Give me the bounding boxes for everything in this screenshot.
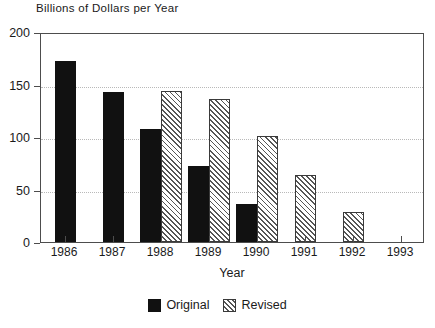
x-axis-tick-mark bbox=[161, 236, 162, 242]
x-axis-tick-label: 1993 bbox=[387, 245, 414, 259]
chart-title: Billions of Dollars per Year bbox=[36, 2, 179, 14]
x-axis-tick-mark bbox=[209, 236, 210, 242]
legend-label-original: Original bbox=[166, 298, 209, 312]
y-axis-tick-label: 100 bbox=[9, 131, 30, 145]
y-axis-tick-mark bbox=[34, 86, 40, 87]
bar-original bbox=[103, 92, 124, 242]
x-axis-labels: 19861987198819891990199119921993 bbox=[40, 245, 424, 263]
x-axis-tick-mark bbox=[401, 236, 402, 242]
bar-revised bbox=[161, 91, 182, 242]
plot-area bbox=[40, 33, 424, 243]
y-axis-tick-label: 200 bbox=[9, 26, 30, 40]
chart-legend: Original Revised bbox=[0, 298, 435, 312]
legend-item-original: Original bbox=[148, 298, 209, 312]
y-axis-tick-label: 50 bbox=[16, 184, 30, 198]
gridline bbox=[41, 139, 423, 140]
y-axis-tick-label: 150 bbox=[9, 79, 30, 93]
legend-swatch-revised-icon bbox=[223, 299, 236, 312]
bar-original bbox=[236, 204, 257, 242]
x-axis-tick-label: 1987 bbox=[99, 245, 126, 259]
x-axis-tick-label: 1988 bbox=[147, 245, 174, 259]
y-axis: 050100150200 bbox=[0, 33, 40, 243]
x-axis-tick-label: 1989 bbox=[195, 245, 222, 259]
bar-original bbox=[140, 129, 161, 242]
legend-swatch-original-icon bbox=[148, 299, 161, 312]
x-axis-tick-mark bbox=[305, 236, 306, 242]
bar-original bbox=[188, 166, 209, 242]
bar-revised bbox=[257, 136, 278, 242]
x-axis-title: Year bbox=[40, 266, 424, 280]
gridline bbox=[41, 87, 423, 88]
y-axis-tick-mark bbox=[34, 33, 40, 34]
bar-revised bbox=[209, 99, 230, 242]
x-axis-tick-label: 1991 bbox=[291, 245, 318, 259]
legend-label-revised: Revised bbox=[241, 298, 286, 312]
gridline bbox=[41, 192, 423, 193]
y-axis-tick-mark bbox=[34, 243, 40, 244]
x-axis-tick-mark bbox=[65, 236, 66, 242]
x-axis-tick-mark bbox=[353, 236, 354, 242]
y-axis-tick-mark bbox=[34, 191, 40, 192]
y-axis-tick-mark bbox=[34, 138, 40, 139]
x-axis-tick-label: 1986 bbox=[51, 245, 78, 259]
bar-chart-figure: Billions of Dollars per Year 05010015020… bbox=[0, 0, 435, 328]
bar-revised bbox=[295, 175, 316, 242]
y-axis-tick-label: 0 bbox=[23, 236, 30, 250]
legend-item-revised: Revised bbox=[223, 298, 286, 312]
x-axis-tick-label: 1992 bbox=[339, 245, 366, 259]
x-axis-tick-mark bbox=[113, 236, 114, 242]
x-axis-tick-label: 1990 bbox=[243, 245, 270, 259]
bar-original bbox=[55, 61, 76, 242]
x-axis-tick-mark bbox=[257, 236, 258, 242]
